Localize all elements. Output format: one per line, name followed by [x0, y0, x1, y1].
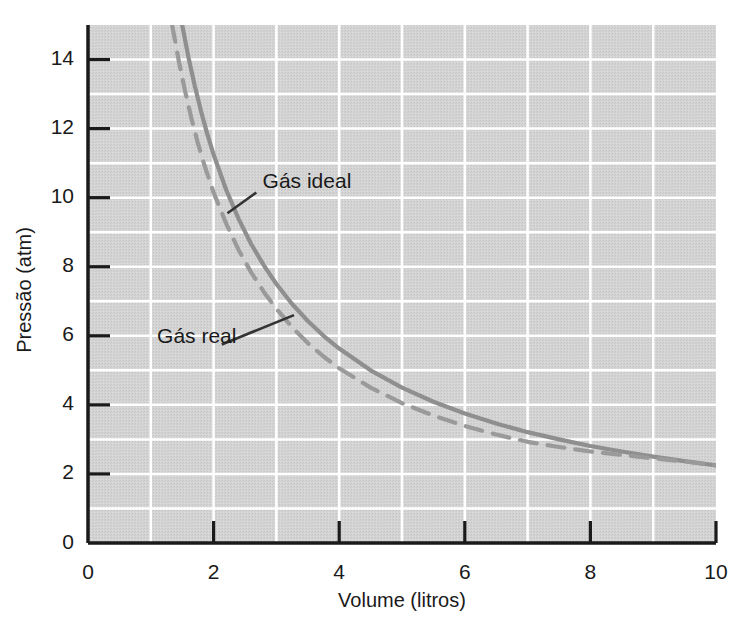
x-tick-label: 10 [704, 560, 727, 583]
y-tick-label: 2 [62, 460, 74, 483]
y-tick-label: 6 [62, 322, 74, 345]
y-tick-label: 0 [62, 530, 74, 553]
annotation-label: Gás real [157, 324, 236, 347]
x-axis-title: Volume (litros) [338, 589, 466, 611]
annotation-label: Gás ideal [263, 169, 352, 192]
pv-chart: Gás idealGás real 024681012140246810 Vol… [0, 0, 748, 624]
x-tick-label: 8 [585, 560, 597, 583]
y-tick-label: 4 [62, 391, 74, 414]
y-axis-title: Pressão (atm) [13, 227, 35, 353]
x-tick-label: 6 [459, 560, 471, 583]
x-tick-label: 2 [208, 560, 220, 583]
y-tick-label: 10 [51, 184, 74, 207]
x-tick-label: 4 [333, 560, 345, 583]
y-tick-label: 8 [62, 253, 74, 276]
y-tick-label: 14 [51, 46, 75, 69]
y-tick-label: 12 [51, 115, 74, 138]
gas-pressure-volume-figure: Gás idealGás real 024681012140246810 Vol… [0, 0, 748, 624]
x-tick-label: 0 [82, 560, 94, 583]
